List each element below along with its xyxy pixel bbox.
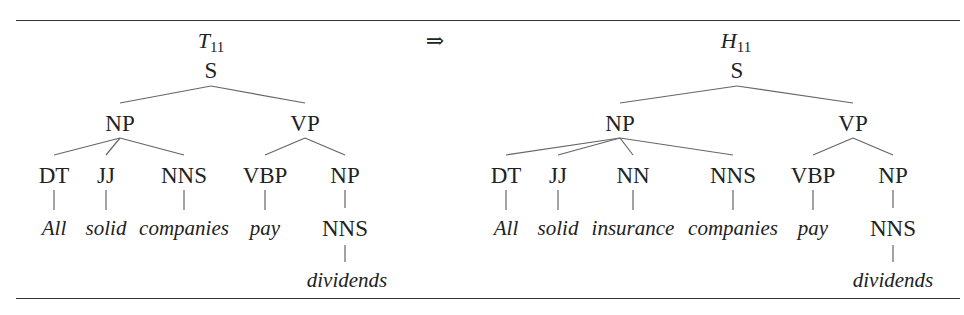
implies-arrow-icon: ⇒ xyxy=(426,30,444,52)
left-word-dividends: dividends xyxy=(307,270,387,291)
right-word-dividends: dividends xyxy=(853,270,933,291)
title-subscript: 11 xyxy=(737,39,751,55)
title-letter: T xyxy=(198,28,210,53)
right-node-VBP: VBP xyxy=(791,164,836,187)
right-word-pay: pay xyxy=(798,218,828,239)
right-node-DT: DT xyxy=(491,164,522,187)
left-node-VBP: VBP xyxy=(243,164,288,187)
left-node-DT: DT xyxy=(39,164,70,187)
right-word-solid: solid xyxy=(538,218,579,239)
right-tree-title: H11 xyxy=(721,30,751,55)
left-node-NP: NP xyxy=(105,112,134,135)
tree-edges xyxy=(0,0,964,315)
title-subscript: 11 xyxy=(210,39,224,55)
right-node-NP-object: NP xyxy=(878,164,907,187)
left-node-NP-object: NP xyxy=(330,164,359,187)
left-node-NNS-object: NNS xyxy=(322,217,368,240)
right-node-S: S xyxy=(731,59,744,82)
right-node-NN: NN xyxy=(616,164,649,187)
right-node-JJ: JJ xyxy=(549,164,567,187)
right-node-VP: VP xyxy=(838,112,867,135)
left-node-VP: VP xyxy=(290,112,319,135)
right-word-all: All xyxy=(494,218,519,239)
right-node-NNS: NNS xyxy=(710,164,756,187)
title-letter: H xyxy=(721,28,737,53)
right-node-NP: NP xyxy=(605,112,634,135)
right-node-NNS-object: NNS xyxy=(870,217,916,240)
left-node-NNS: NNS xyxy=(161,164,207,187)
left-word-all: All xyxy=(42,218,67,239)
left-word-companies: companies xyxy=(139,218,229,239)
left-node-JJ: JJ xyxy=(97,164,115,187)
left-tree-title: T11 xyxy=(198,30,225,55)
left-node-S: S xyxy=(205,59,218,82)
right-word-companies: companies xyxy=(688,218,778,239)
left-word-pay: pay xyxy=(250,218,280,239)
left-word-solid: solid xyxy=(86,218,127,239)
right-word-insurance: insurance xyxy=(592,218,675,239)
